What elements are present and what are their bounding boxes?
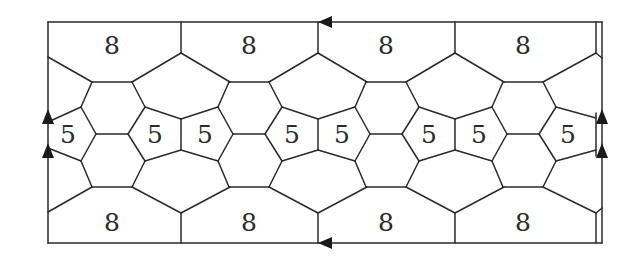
pentagon-edge: [181, 107, 218, 119]
hexagon-edge: [269, 161, 282, 187]
octagon-edge: [406, 187, 455, 213]
octagon-top-label: 8: [104, 31, 120, 60]
octagon-edge: [455, 187, 504, 213]
octagon-bottom-label: 8: [104, 208, 120, 237]
pentagon-edge: [419, 107, 455, 119]
octagon-bottom-label: 8: [378, 208, 394, 237]
hexagon-edge: [128, 107, 145, 134]
octagon-bottom-label: 8: [515, 208, 531, 237]
hexagon-edge: [269, 82, 282, 107]
pentagon-edge: [282, 150, 318, 161]
right-edge-lower-arrow-icon: [596, 143, 608, 158]
hexagon-edge: [265, 134, 282, 161]
pentagon-edge: [419, 150, 455, 161]
pentagon-label: 5: [421, 120, 437, 149]
hexagon-edge: [355, 82, 366, 107]
hexagon-edge: [492, 107, 507, 134]
top-edge-arrow-icon: [318, 16, 332, 28]
hexagon-edge: [539, 107, 556, 134]
pentagon-edge: [145, 150, 181, 161]
hexagon-edge: [218, 82, 229, 107]
bottom-edge-arrow-icon: [318, 237, 332, 249]
pentagon-edge: [556, 150, 596, 161]
hexagon-edge: [265, 107, 282, 134]
hexagon-edge: [218, 107, 233, 134]
octagon-edge: [269, 53, 318, 82]
octagon-edge: [269, 187, 318, 213]
pentagon-label: 5: [560, 120, 576, 149]
hexagon-edge: [132, 82, 145, 107]
pentagon-edge: [318, 150, 355, 161]
pentagon-edge: [455, 107, 492, 119]
left-edge-lower-arrow-icon: [42, 143, 54, 158]
right-edge-upper-arrow-icon: [596, 109, 608, 124]
pentagon-edge: [181, 150, 218, 161]
octagon-edge: [48, 57, 92, 82]
pentagon-edge: [48, 148, 81, 161]
hexagon-edge: [218, 161, 229, 187]
octagon-edge: [543, 53, 596, 82]
octagon-edge: [596, 53, 602, 58]
hexagon-edge: [81, 107, 96, 134]
octagon-edge: [596, 208, 602, 213]
octagon-top-label: 8: [241, 31, 257, 60]
pentagon-label: 5: [284, 120, 300, 149]
octagon-edge: [48, 187, 92, 212]
octagon-edge: [543, 187, 596, 213]
hexagon-edge: [492, 161, 503, 187]
pentagon-edge: [556, 107, 596, 118]
pentagon-edge: [318, 107, 355, 119]
hexagon-edge: [492, 82, 503, 107]
hexagon-edge: [81, 134, 96, 161]
octagon-bottom-label: 8: [241, 208, 257, 237]
hexagon-edge: [406, 82, 419, 107]
hexagon-edge: [402, 107, 419, 134]
hexagon-edge: [355, 134, 370, 161]
octagon-edge: [406, 53, 455, 82]
hexagon-edge: [543, 161, 556, 187]
hexagon-edge: [355, 161, 366, 187]
octagon-edge: [181, 53, 230, 82]
octagon-top-label: 8: [515, 31, 531, 60]
hexagon-edge: [402, 134, 419, 161]
pentagon-edge: [455, 150, 492, 161]
hexagon-edge: [81, 161, 92, 187]
octagon-top-label: 8: [378, 31, 394, 60]
pentagon-label: 5: [147, 120, 163, 149]
pentagon-label: 5: [60, 120, 76, 149]
pentagon-edge: [282, 107, 318, 119]
hexagon-edge: [543, 82, 556, 107]
hexagon-edge: [81, 82, 92, 107]
hexagon-edge: [406, 161, 419, 187]
pentagon-label: 5: [334, 120, 350, 149]
tiling-diagram: 8888555555558888: [0, 0, 644, 265]
octagon-edge: [181, 187, 230, 213]
hexagon-edge: [218, 134, 233, 161]
octagon-edge: [132, 187, 181, 213]
octagon-edge: [318, 53, 367, 82]
hexagon-edge: [492, 134, 507, 161]
hexagon-edge: [355, 107, 370, 134]
octagon-edge: [132, 53, 181, 82]
pentagon-label: 5: [197, 120, 213, 149]
octagon-edge: [318, 187, 367, 213]
hexagon-edge: [539, 134, 556, 161]
pentagon-edge: [145, 107, 181, 119]
pentagon-label: 5: [471, 120, 487, 149]
hexagon-edge: [132, 161, 145, 187]
hexagon-edge: [128, 134, 145, 161]
left-edge-upper-arrow-icon: [42, 109, 54, 124]
octagon-edge: [455, 53, 504, 82]
